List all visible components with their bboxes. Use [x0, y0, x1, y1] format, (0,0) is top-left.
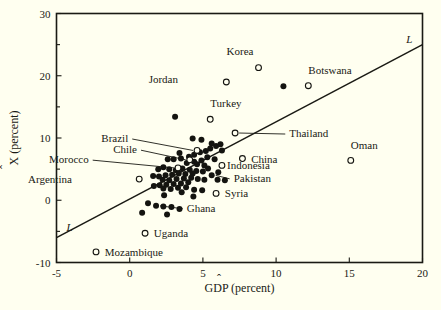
- country-label-oman: Oman: [351, 139, 378, 151]
- data-point: [178, 156, 184, 162]
- data-point: [212, 156, 218, 162]
- data-point: [160, 164, 166, 170]
- data-point: [155, 166, 161, 172]
- data-point: [222, 177, 228, 183]
- data-point-brazil: [194, 148, 200, 154]
- data-point: [198, 137, 204, 143]
- data-point: [168, 186, 174, 192]
- country-label-pakistan: Pakistan: [234, 172, 272, 184]
- fit-line-label-right: L: [405, 33, 412, 45]
- fit-line-label-left: L: [66, 221, 73, 233]
- data-point: [176, 170, 182, 176]
- data-point: [168, 204, 174, 210]
- data-point: [199, 187, 205, 193]
- data-point: [176, 206, 182, 212]
- data-point: [160, 185, 166, 191]
- data-point-mozambique: [93, 249, 99, 255]
- data-point-indonesia: [219, 162, 225, 168]
- country-label-thailand: Thailand: [289, 127, 329, 139]
- data-point-oman: [348, 158, 354, 164]
- y-tick-label-1: 0: [45, 194, 51, 206]
- country-label-argentina: Argentina: [28, 173, 72, 185]
- country-label-uganda: Uganda: [154, 227, 188, 239]
- y-tick-label-3: 20: [40, 70, 52, 82]
- data-point: [151, 183, 157, 189]
- data-point: [190, 194, 196, 200]
- country-label-botswana: Botswana: [308, 64, 352, 76]
- data-point: [215, 177, 221, 183]
- data-point-jordan: [223, 79, 229, 85]
- country-label-syria: Syria: [225, 187, 248, 199]
- country-label-chile: Chile: [113, 143, 137, 155]
- data-point-syria: [213, 191, 219, 197]
- country-label-brazil: Brazil: [101, 132, 128, 144]
- x-tick-label-5: 20: [417, 267, 429, 279]
- data-point: [145, 200, 151, 206]
- data-point-argentina: [136, 176, 142, 182]
- x-tick-label-0: -5: [52, 267, 62, 279]
- x-tick-label-4: 15: [344, 267, 356, 279]
- data-point: [166, 166, 172, 172]
- data-point: [200, 169, 206, 175]
- data-point: [172, 114, 178, 120]
- data-point: [183, 184, 189, 190]
- data-point-pakistan: [209, 172, 215, 178]
- data-point: [160, 177, 166, 183]
- y-tick-label-0: -10: [36, 257, 51, 269]
- data-point: [195, 176, 201, 182]
- country-label-morocco: Morocco: [49, 153, 89, 165]
- data-point-thailand: [232, 130, 238, 136]
- x-tick-label-3: 10: [271, 267, 283, 279]
- x-tick-label-2: 5: [200, 267, 206, 279]
- data-point: [191, 187, 197, 193]
- country-label-korea: Korea: [227, 45, 254, 57]
- data-point-morocco: [175, 165, 181, 171]
- data-point: [205, 166, 211, 172]
- data-point: [160, 203, 166, 209]
- scatter-figure: -505101520-100102030 LL KoreaBotswanaJor…: [0, 0, 441, 310]
- data-point: [219, 147, 225, 153]
- data-point-botswana: [305, 83, 311, 89]
- data-point: [215, 169, 221, 175]
- data-point: [204, 154, 210, 160]
- data-point-turkey: [207, 116, 213, 122]
- x-axis-title: GDP (percent): [205, 281, 275, 295]
- x-tick-label-1: 0: [127, 267, 133, 279]
- data-point: [217, 141, 223, 147]
- country-label-indonesia: Indonesia: [227, 159, 270, 171]
- data-point: [176, 150, 182, 156]
- country-label-jordan: Jordan: [149, 73, 179, 85]
- data-point: [179, 189, 185, 195]
- y-tick-label-2: 10: [40, 132, 52, 144]
- country-label-turkey: Turkey: [210, 97, 242, 109]
- country-label-mozambique: Mozambique: [105, 246, 163, 258]
- data-point: [171, 156, 177, 162]
- data-point-ghana: [153, 203, 159, 209]
- data-point: [280, 83, 286, 89]
- data-point: [201, 177, 207, 183]
- scatter-plot-svg: -505101520-100102030 LL KoreaBotswanaJor…: [0, 0, 441, 310]
- data-point: [164, 212, 170, 218]
- country-label-ghana: Ghana: [187, 202, 216, 214]
- data-point: [165, 156, 171, 162]
- y-axis-title-hat: ˆ: [0, 165, 12, 169]
- data-point: [194, 161, 200, 167]
- y-axis-title: X (percent): [7, 111, 21, 166]
- data-point-uganda: [142, 230, 148, 236]
- data-point-korea: [256, 65, 262, 71]
- data-point: [169, 172, 175, 178]
- data-point-chile: [187, 157, 193, 163]
- y-tick-label-4: 30: [40, 8, 52, 20]
- data-point: [203, 148, 209, 154]
- data-point: [161, 192, 167, 198]
- data-point: [190, 136, 196, 142]
- data-point: [150, 173, 156, 179]
- data-point: [139, 210, 145, 216]
- x-axis-title-hat: ˆ: [217, 272, 221, 286]
